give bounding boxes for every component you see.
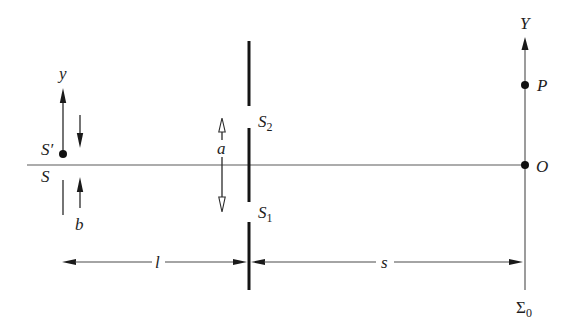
arrow-up-icon (77, 177, 83, 192)
dimension-l-label: l (155, 253, 160, 272)
arrow-right-icon (233, 259, 247, 265)
dimension-s-label: s (381, 253, 388, 272)
slit-separation-label: a (217, 139, 226, 158)
source-image-dot (59, 150, 67, 158)
source-width-arrow-top (77, 115, 83, 148)
point-p-dot (521, 81, 529, 89)
source-y-axis (60, 88, 66, 154)
arrow-down-icon (77, 133, 83, 148)
screen-label-main: Σ (516, 298, 526, 317)
double-slit-diagram: Y P O Σ0 S2 S1 a y S′ S b l (0, 0, 572, 327)
slit2-label-sub: 2 (267, 120, 273, 134)
source-image-label: S′ (41, 140, 54, 159)
screen-label: Σ0 (516, 298, 532, 320)
arrow-right-icon (509, 259, 523, 265)
screen-axis-label: Y (520, 14, 531, 33)
point-p-label: P (536, 76, 547, 95)
slit2-label: S2 (258, 112, 273, 134)
slit1-label-sub: 1 (267, 211, 273, 225)
source-label: S (41, 167, 50, 186)
screen-label-sub: 0 (526, 306, 532, 320)
arrow-left-icon (62, 259, 76, 265)
arrow-left-icon (251, 259, 265, 265)
arrow-up-icon (60, 88, 66, 103)
origin-label: O (536, 157, 548, 176)
arrow-up-icon (522, 37, 529, 50)
slit1-label: S1 (258, 203, 273, 225)
hollow-arrow-down-icon (219, 197, 225, 212)
source-width-label: b (75, 215, 84, 234)
source-width-arrow-bottom (77, 177, 83, 208)
hollow-arrow-up-icon (219, 118, 225, 132)
origin-dot (521, 161, 529, 169)
source-axis-label: y (57, 64, 67, 83)
